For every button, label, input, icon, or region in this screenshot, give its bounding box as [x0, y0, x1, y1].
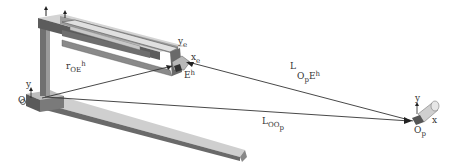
label-L-OpE-h: L [290, 62, 296, 71]
arrowhead-L-OOp [404, 117, 412, 124]
label-y-e: ye [178, 37, 187, 46]
label-origin-y: y [26, 80, 31, 89]
label-Op-y: y [415, 94, 420, 103]
label-Op-x: x [432, 116, 437, 125]
vector-r-OE [42, 66, 172, 98]
label-Op: Op [414, 126, 426, 135]
label-r-OE-h: rOEh [66, 62, 86, 71]
label-x-e: xe [191, 53, 200, 62]
label-L-OpE-h-sub: OpEh [297, 72, 320, 81]
robot-frame-diagram: rOEh L OpEh LOOp ye xe Eh O y Op y x [0, 0, 452, 168]
label-origin-O: O [18, 96, 25, 105]
label-L-OOp: LOOp [262, 117, 284, 126]
vertical-column [40, 22, 50, 96]
top-arm [38, 14, 185, 60]
diagram-graphics [0, 0, 452, 168]
label-E-h: Eh [184, 71, 195, 80]
